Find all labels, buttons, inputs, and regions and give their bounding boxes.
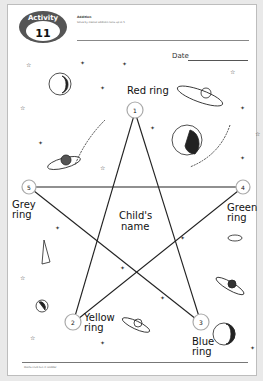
svg-text:✦: ✦ [55, 224, 60, 231]
footer-divider [22, 362, 248, 363]
star-diagram: 1 2 3 4 5 ☆✦✦ ☆✦✦ ☆✦☆ ✦☆✦ ✦✦✦ ☆✦☆ ✦✦ [0, 0, 263, 381]
svg-text:4: 4 [241, 184, 245, 191]
svg-text:✦: ✦ [180, 234, 185, 241]
svg-text:✦: ✦ [160, 294, 165, 301]
svg-text:✦: ✦ [100, 339, 105, 346]
green-ring-label-2: ring [227, 213, 247, 223]
svg-text:☆: ☆ [100, 164, 105, 171]
svg-text:☆: ☆ [230, 68, 235, 75]
svg-text:✦: ✦ [240, 154, 245, 161]
svg-text:✦: ✦ [250, 344, 255, 351]
grey-ring-label-2: ring [12, 210, 32, 220]
red-ring-label: Red ring [127, 86, 169, 96]
svg-text:☆: ☆ [20, 104, 25, 111]
svg-text:✦: ✦ [120, 264, 125, 271]
stars: ☆✦✦ ☆✦✦ ☆✦☆ ✦☆✦ ✦✦✦ ☆✦☆ ✦✦ [20, 59, 260, 351]
center-label-2: name [121, 222, 149, 232]
yellow-ring-label-2: ring [84, 323, 104, 333]
svg-text:☆: ☆ [255, 130, 260, 137]
svg-text:☆: ☆ [20, 274, 25, 281]
footer-text: Maths Club Fun © Hodder [24, 366, 56, 369]
svg-text:✦: ✦ [38, 139, 43, 146]
center-label: Child's [119, 211, 152, 221]
blue-ring-label-2: ring [192, 347, 212, 357]
svg-text:✦: ✦ [240, 104, 245, 111]
svg-text:1: 1 [133, 107, 137, 114]
svg-text:2: 2 [71, 319, 75, 326]
svg-text:3: 3 [199, 319, 203, 326]
svg-text:✦: ✦ [100, 84, 105, 91]
svg-text:✦: ✦ [80, 59, 85, 66]
svg-text:✦: ✦ [150, 124, 155, 131]
svg-text:✦: ✦ [122, 60, 127, 67]
svg-text:☆: ☆ [30, 334, 35, 341]
svg-text:5: 5 [27, 184, 31, 191]
svg-text:☆: ☆ [26, 61, 31, 68]
